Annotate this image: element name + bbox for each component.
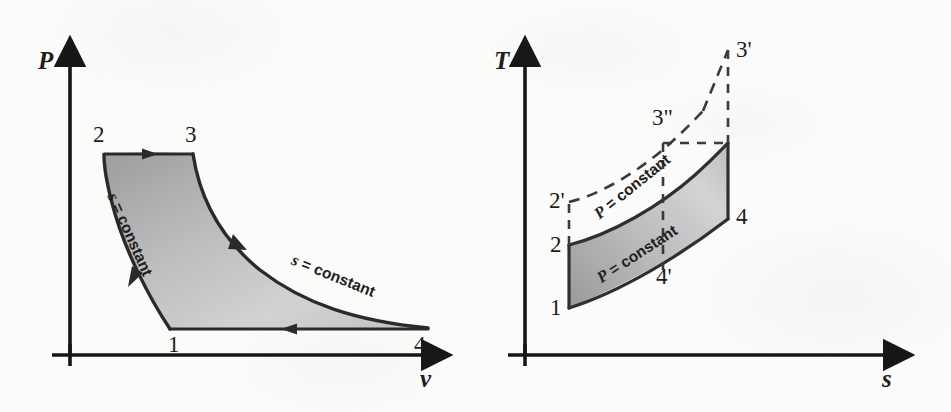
ts-dashed-3pp-to-3prime bbox=[703, 50, 728, 111]
ts-point-label-2-prime: 2' bbox=[549, 189, 565, 212]
pv-point-label-1: 1 bbox=[168, 333, 180, 356]
ts-point-label-3-prime: 3' bbox=[736, 38, 752, 61]
pv-y-axis-label: P bbox=[38, 48, 53, 73]
pv-x-axis-label: v bbox=[420, 366, 431, 391]
ts-point-label-2: 2 bbox=[550, 233, 562, 256]
ts-point-label-3-double-prime: 3" bbox=[652, 106, 673, 129]
ts-x-axis-label: s bbox=[882, 366, 892, 391]
pv-point-label-3: 3 bbox=[185, 123, 197, 146]
pv-point-label-2: 2 bbox=[93, 123, 105, 146]
pv-point-label-4: 4 bbox=[414, 333, 426, 356]
pv-diagram-graphic bbox=[0, 0, 470, 412]
ts-point-label-4-prime: 4' bbox=[656, 265, 672, 288]
pv-arrow-3-4 bbox=[228, 234, 247, 250]
ts-diagram-panel: T s 1 2 2' 3" 3' 4 4' P = constant P = c… bbox=[470, 0, 951, 412]
figure-canvas: P v 2 3 1 4 s = constant s = constant bbox=[0, 0, 951, 412]
ts-y-axis-label: T bbox=[494, 48, 509, 73]
pv-diagram-panel: P v 2 3 1 4 s = constant s = constant bbox=[0, 0, 470, 412]
ts-point-label-1: 1 bbox=[550, 296, 562, 319]
ts-diagram-graphic bbox=[470, 0, 951, 412]
ts-point-label-4: 4 bbox=[736, 205, 748, 228]
